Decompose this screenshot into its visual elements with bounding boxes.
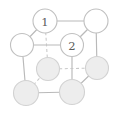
atom-bottom-back-left bbox=[37, 58, 60, 81]
atom-top-back-left bbox=[11, 34, 34, 57]
atom-circle-top-back-left bbox=[11, 34, 34, 57]
atom-nodes: 12 bbox=[11, 9, 109, 106]
atom-circle-bottom-back-right bbox=[86, 57, 109, 80]
atom-bottom-front-left bbox=[14, 81, 39, 106]
atom-circle-bottom-front-right bbox=[60, 80, 85, 105]
unit-cell-canvas: 12 bbox=[0, 0, 121, 117]
atom-top-front-right bbox=[84, 9, 108, 33]
atom-bottom-front-right bbox=[60, 80, 85, 105]
atom-label-top-back-right: 2 bbox=[68, 39, 75, 53]
atom-bottom-back-right bbox=[86, 57, 109, 80]
atom-top-back-right: 2 bbox=[61, 34, 84, 57]
unit-cell-figure: 12 bbox=[0, 0, 121, 117]
atom-circle-bottom-front-left bbox=[14, 81, 39, 106]
atom-circle-bottom-back-left bbox=[37, 58, 60, 81]
atom-circle-top-front-right bbox=[84, 9, 108, 33]
atom-top-front-left: 1 bbox=[33, 9, 57, 33]
atom-label-top-front-left: 1 bbox=[41, 15, 48, 29]
